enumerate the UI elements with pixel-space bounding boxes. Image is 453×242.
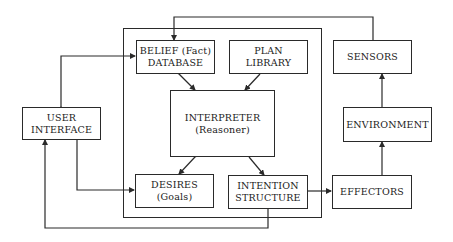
- interpreter-box: INTERPRETER (Reasoner): [170, 90, 275, 157]
- plan-label-2: LIBRARY: [246, 57, 292, 69]
- user-label-1: USER: [47, 112, 76, 124]
- interpreter-label-2: (Reasoner): [195, 124, 250, 136]
- desires-box: DESIRES (Goals): [135, 174, 214, 208]
- effectors-box: EFFECTORS: [332, 175, 412, 209]
- plan-label-1: PLAN: [254, 45, 283, 57]
- sensors-box: SENSORS: [333, 40, 412, 74]
- intention-structure-box: INTENTION STRUCTURE: [228, 175, 308, 209]
- belief-database-box: BELIEF (Fact) DATABASE: [136, 40, 215, 74]
- environment-label: ENVIRONMENT: [346, 119, 429, 131]
- desires-label-1: DESIRES: [151, 179, 198, 191]
- intention-label-1: INTENTION: [237, 180, 299, 192]
- environment-box: ENVIRONMENT: [343, 107, 432, 142]
- sensors-label: SENSORS: [347, 51, 398, 63]
- belief-label-1: BELIEF (Fact): [140, 45, 211, 57]
- user-label-2: INTERFACE: [31, 124, 92, 136]
- effectors-label: EFFECTORS: [340, 186, 404, 198]
- belief-label-2: DATABASE: [148, 57, 204, 69]
- intention-label-2: STRUCTURE: [235, 192, 301, 204]
- interpreter-label-1: INTERPRETER: [185, 112, 261, 124]
- desires-label-2: (Goals): [157, 191, 193, 203]
- plan-library-box: PLAN LIBRARY: [229, 40, 308, 74]
- user-interface-box: USER INTERFACE: [22, 107, 101, 140]
